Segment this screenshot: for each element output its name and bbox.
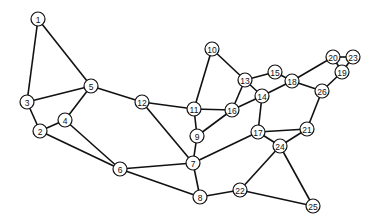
node-2: 2	[33, 124, 47, 138]
node-label: 12	[137, 98, 147, 108]
edge-1-5	[38, 19, 91, 86]
node-label: 15	[270, 68, 280, 78]
edge-2-6	[40, 131, 120, 169]
node-label: 22	[235, 186, 245, 196]
edge-22-24	[240, 146, 280, 190]
node-23: 23	[346, 50, 360, 64]
node-label: 19	[337, 68, 347, 78]
node-label: 1	[36, 15, 41, 25]
node-13: 13	[238, 73, 252, 87]
node-16: 16	[225, 103, 239, 117]
node-label: 16	[227, 106, 237, 116]
edge-6-8	[120, 169, 200, 197]
node-label: 3	[25, 98, 30, 108]
node-label: 21	[302, 125, 312, 135]
node-25: 25	[306, 199, 320, 213]
node-4: 4	[58, 113, 72, 127]
node-9: 9	[190, 129, 204, 143]
node-label: 11	[190, 105, 199, 115]
node-24: 24	[273, 139, 287, 153]
edge-22-25	[240, 190, 313, 206]
edge-4-6	[65, 120, 120, 169]
node-7: 7	[186, 156, 200, 170]
node-label: 10	[207, 45, 217, 55]
node-11: 11	[187, 102, 201, 116]
node-10: 10	[205, 42, 219, 56]
node-label: 17	[253, 128, 263, 138]
edge-12-11	[142, 102, 194, 109]
node-label: 7	[191, 159, 196, 169]
node-5: 5	[84, 79, 98, 93]
node-label: 24	[275, 142, 285, 152]
edge-6-7	[120, 163, 193, 169]
node-label: 2	[38, 127, 43, 137]
node-6: 6	[113, 162, 127, 176]
node-8: 8	[193, 190, 207, 204]
node-label: 18	[287, 77, 297, 87]
edge-12-7	[142, 102, 193, 163]
node-12: 12	[135, 95, 149, 109]
node-label: 6	[118, 165, 123, 175]
node-19: 19	[335, 65, 349, 79]
node-3: 3	[20, 95, 34, 109]
node-label: 14	[257, 92, 267, 102]
node-label: 9	[195, 132, 200, 142]
node-22: 22	[233, 183, 247, 197]
node-label: 20	[328, 53, 338, 63]
node-21: 21	[300, 122, 314, 136]
node-label: 25	[308, 202, 318, 212]
edge-24-25	[280, 146, 313, 206]
node-label: 4	[63, 116, 68, 126]
node-label: 13	[240, 76, 250, 86]
graph-diagram: 1234567891011121314151617181920212223242…	[0, 0, 379, 223]
node-15: 15	[268, 65, 282, 79]
node-label: 23	[348, 53, 358, 63]
node-26: 26	[315, 84, 329, 98]
edge-1-3	[27, 19, 38, 102]
node-14: 14	[255, 89, 269, 103]
node-17: 17	[251, 125, 265, 139]
node-18: 18	[285, 74, 299, 88]
edge-10-11	[194, 49, 212, 109]
node-1: 1	[31, 12, 45, 26]
node-label: 5	[89, 82, 94, 92]
node-label: 8	[198, 193, 203, 203]
node-label: 26	[317, 87, 327, 97]
node-20: 20	[326, 50, 340, 64]
edge-5-12	[91, 86, 142, 102]
